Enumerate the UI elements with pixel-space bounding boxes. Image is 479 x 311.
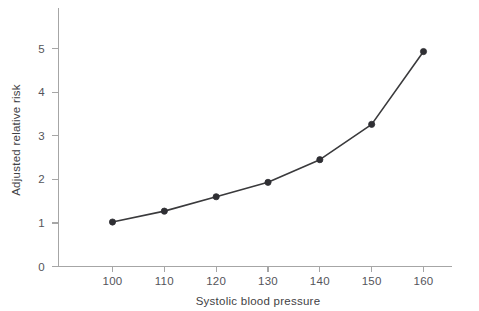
line-chart-plot: 0 1 2 3 4 5 100 110 120 130 140 150 160 … [0,0,479,311]
y-tick-label-3: 3 [38,130,45,142]
data-point [420,48,426,54]
data-point [213,194,219,200]
x-tick-label-100: 100 [102,275,122,287]
y-tick-label-2: 2 [38,173,45,185]
y-tick-label-1: 1 [38,217,45,229]
y-tick-label-5: 5 [38,43,45,55]
data-point [109,219,115,225]
x-tick-label-110: 110 [155,275,174,287]
y-axis-title: Adjusted relative risk [10,84,22,196]
data-point [265,179,271,185]
plot-background [0,0,479,311]
data-point [317,157,323,163]
x-tick-label-130: 130 [258,275,278,287]
data-point [161,208,167,214]
y-tick-label-0: 0 [38,261,45,273]
x-tick-label-120: 120 [206,275,226,287]
x-tick-label-140: 140 [310,275,330,287]
data-point [369,121,375,127]
x-tick-label-160: 160 [413,275,433,287]
y-tick-label-4: 4 [38,86,45,98]
x-tick-label-150: 150 [362,275,382,287]
x-axis-title: Systolic blood pressure [196,295,321,307]
chart-figure: 0 1 2 3 4 5 100 110 120 130 140 150 160 … [0,0,479,311]
